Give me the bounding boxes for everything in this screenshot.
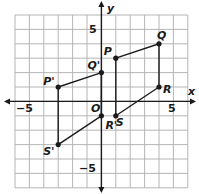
x-tick-neg5: −5: [16, 102, 33, 115]
vertex-label: Q': [87, 59, 100, 72]
x-axis-label: x: [187, 85, 196, 98]
vertex-label: S': [43, 145, 54, 158]
y-tick-pos5: 5: [89, 23, 97, 36]
vertex-point: [156, 84, 161, 89]
vertex-label: P': [43, 75, 54, 88]
x-tick-pos5: 5: [168, 102, 176, 115]
coordinate-plane: PQRSP'Q'R'S' x y O −5 5 5 −5: [0, 0, 199, 194]
figures: PQRSP'Q'R'S': [43, 29, 171, 158]
vertex-point: [56, 142, 61, 147]
y-tick-neg5: −5: [79, 162, 96, 175]
y-axis-label: y: [107, 2, 115, 15]
origin-label: O: [91, 102, 100, 115]
vertex-point: [56, 84, 61, 89]
polygon-outline: [116, 44, 159, 116]
vertex-point: [113, 56, 118, 61]
y-axis-down-arrow-icon: [98, 187, 104, 193]
x-axis-left-arrow-icon: [4, 98, 10, 104]
figure-p-primeq-primer-primes-prime: P'Q'R'S': [43, 59, 117, 158]
vertex-label: R: [163, 83, 171, 96]
vertex-point: [156, 41, 161, 46]
vertex-label: P: [104, 45, 112, 58]
x-axis-right-arrow-icon: [190, 98, 196, 104]
vertex-label: Q: [157, 29, 166, 42]
vertex-label: R': [105, 119, 117, 132]
y-axis-up-arrow-icon: [98, 1, 104, 7]
